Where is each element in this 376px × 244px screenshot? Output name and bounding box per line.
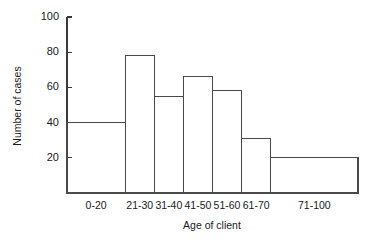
bar[interactable] — [242, 138, 271, 193]
bar[interactable] — [154, 96, 183, 193]
x-axis-tick-labels: 0-2021-3031-4041-5051-6061-7071-100 — [86, 199, 331, 211]
x-tick-label: 51-60 — [214, 199, 241, 211]
chart-canvas: Number of cases 20406080100 0-2021-3031-… — [0, 0, 376, 244]
y-tick-label: 100 — [41, 10, 59, 22]
x-tick-label: 41-50 — [185, 199, 212, 211]
x-tick-label: 31-40 — [155, 199, 182, 211]
y-axis-tick-labels: 20406080100 — [41, 10, 59, 163]
bars-group — [67, 56, 358, 193]
x-tick-label: 0-20 — [86, 199, 107, 211]
bar[interactable] — [271, 158, 358, 193]
y-tick-label: 60 — [47, 80, 59, 92]
y-tick-label: 80 — [47, 45, 59, 57]
bar[interactable] — [67, 123, 125, 193]
bar[interactable] — [125, 56, 154, 193]
bar[interactable] — [183, 77, 212, 193]
histogram-chart: Number of cases 20406080100 0-2021-3031-… — [0, 0, 376, 244]
y-axis-title: Number of cases — [11, 66, 23, 145]
y-axis-tick-marks — [67, 17, 72, 158]
x-axis-title: Age of client — [183, 219, 241, 231]
bar[interactable] — [213, 91, 242, 193]
x-tick-label: 71-100 — [298, 199, 331, 211]
y-tick-label: 20 — [47, 151, 59, 163]
x-tick-label: 21-30 — [126, 199, 153, 211]
y-tick-label: 40 — [47, 116, 59, 128]
x-tick-label: 61-70 — [243, 199, 270, 211]
